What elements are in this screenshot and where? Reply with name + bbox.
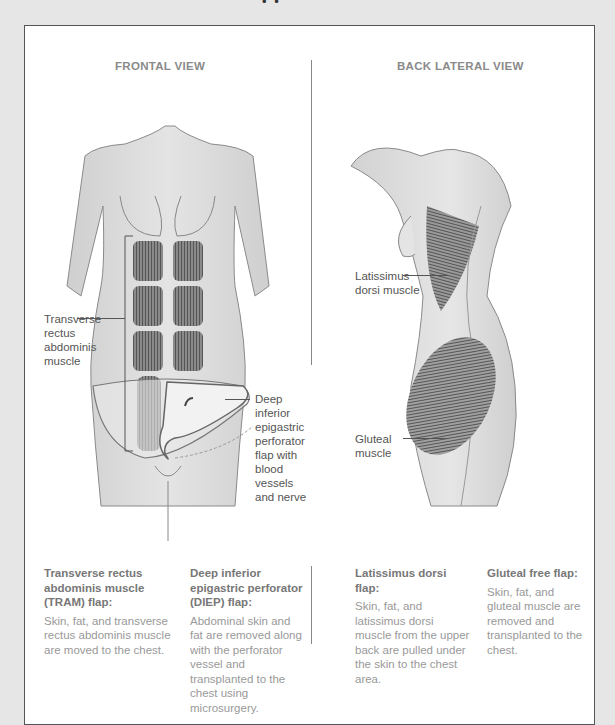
back-lateral-view-title: BACK LATERAL VIEW [397, 60, 524, 72]
illustration-panel: FRONTAL VIEW BACK LATERAL VIEW [24, 25, 595, 725]
caption-divider [311, 566, 312, 644]
caption-title: Gluteal free flap: [487, 566, 587, 581]
caption-body: Skin, fat, and latissimus dorsi muscle f… [355, 599, 473, 686]
caption-tram-flap: Transverse rectus abdominis muscle (TRAM… [44, 566, 179, 657]
caption-title: Deep inferior epigastric perforator (DIE… [190, 566, 305, 610]
label-latissimus-dorsi: Latissimus dorsi muscle [355, 269, 420, 297]
caption-diep-flap: Deep inferior epigastric perforator (DIE… [190, 566, 305, 715]
caption-title: Transverse rectus abdominis muscle (TRAM… [44, 566, 179, 610]
label-diep-flap: Deep inferior epigastric perforator flap… [255, 392, 306, 504]
back-lateral-body-illustration [311, 86, 596, 546]
caption-gluteal-flap: Gluteal free flap: Skin, fat, and glutea… [487, 566, 587, 657]
diep-leader-line [225, 399, 250, 400]
caption-title: Latissimus dorsi flap: [355, 566, 473, 595]
caption-body: Skin, fat, and transverse rectus abdomin… [44, 614, 179, 658]
caption-body: Abdominal skin and fat are removed along… [190, 614, 305, 716]
caption-latissimus-flap: Latissimus dorsi flap: Skin, fat, and la… [355, 566, 473, 686]
cut-off-header-text: • • [262, 0, 281, 9]
label-gluteal-muscle: Gluteal muscle [355, 432, 391, 460]
label-transverse-rectus-abdominis: Transverse rectus abdominis muscle [44, 312, 101, 368]
frontal-view-title: FRONTAL VIEW [115, 60, 205, 72]
gluteal-leader-line [403, 438, 447, 439]
caption-body: Skin, fat, and gluteal muscle are remove… [487, 585, 587, 658]
